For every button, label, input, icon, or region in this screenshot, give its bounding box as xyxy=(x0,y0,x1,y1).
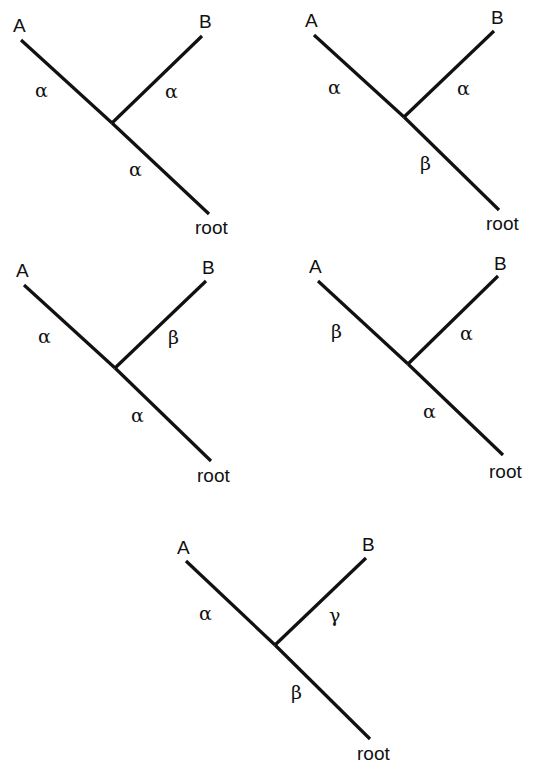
tree-1-label-a: A xyxy=(13,15,26,36)
tree-5-branch-b xyxy=(275,558,366,645)
tree-1-label-root: root xyxy=(195,217,228,238)
tree-3-branch-root-label: α xyxy=(131,404,144,426)
tree-5-label-root: root xyxy=(357,743,390,764)
tree-5-branch-a-label: α xyxy=(199,602,212,624)
tree-5-branch-root xyxy=(275,645,370,739)
tree-4-branch-b-label: α xyxy=(460,322,473,344)
tree-3-branch-a-label: α xyxy=(38,325,51,347)
tree-3-label-a: A xyxy=(16,260,29,281)
tree-2-branch-root xyxy=(404,117,499,210)
tree-4-branch-a-label: β xyxy=(331,320,342,342)
tree-3: A B root α β α xyxy=(16,257,230,486)
tree-2: A B root α α β xyxy=(305,7,519,234)
tree-2-label-a: A xyxy=(305,10,318,31)
tree-1-branch-root xyxy=(112,123,209,214)
tree-1-branch-b-label: α xyxy=(165,80,178,102)
tree-2-label-b: B xyxy=(491,7,504,28)
tree-2-branch-a-label: α xyxy=(328,76,341,98)
tree-5-label-b: B xyxy=(362,534,375,555)
tree-diagram-canvas: A B root α α α A B root α α β A B root α… xyxy=(0,0,547,778)
tree-1-branch-b xyxy=(112,36,202,123)
tree-4: A B root β α α xyxy=(309,253,522,482)
tree-1: A B root α α α xyxy=(13,11,228,238)
tree-5: A B root α γ β xyxy=(177,534,390,764)
tree-4-branch-root-label: α xyxy=(423,400,436,422)
tree-3-branch-root xyxy=(115,368,211,461)
tree-4-label-b: B xyxy=(494,253,507,274)
tree-4-branch-b xyxy=(408,276,498,364)
tree-4-label-a: A xyxy=(309,256,322,277)
tree-2-label-root: root xyxy=(486,213,519,234)
tree-3-branch-b-label: β xyxy=(168,326,179,348)
tree-5-branch-root-label: β xyxy=(291,681,302,703)
tree-3-branch-b xyxy=(115,281,206,368)
tree-1-branch-root-label: α xyxy=(129,158,142,180)
tree-1-branch-a-label: α xyxy=(35,79,48,101)
tree-1-label-b: B xyxy=(199,11,212,32)
tree-3-label-b: B xyxy=(202,257,215,278)
tree-4-label-root: root xyxy=(489,461,522,482)
tree-5-label-a: A xyxy=(177,537,190,558)
tree-3-label-root: root xyxy=(197,465,230,486)
tree-5-branch-b-label: γ xyxy=(329,604,340,626)
tree-2-branch-b-label: α xyxy=(457,77,470,99)
tree-2-branch-root-label: β xyxy=(420,152,431,174)
tree-2-branch-b xyxy=(404,31,494,117)
